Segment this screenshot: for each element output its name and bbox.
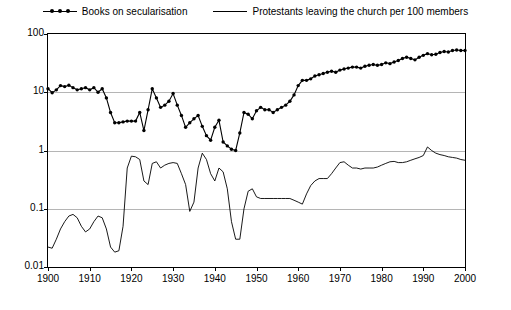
x-axis-tick — [340, 267, 341, 271]
series-marker — [163, 103, 166, 106]
series-marker — [434, 53, 437, 56]
series-marker — [367, 64, 370, 67]
series-marker — [251, 117, 254, 120]
series-marker — [342, 67, 345, 70]
series-line-0 — [48, 50, 465, 150]
x-axis-label: 1960 — [278, 273, 318, 284]
series-marker — [372, 63, 375, 66]
series-marker — [159, 106, 162, 109]
series-marker — [167, 100, 170, 103]
series-marker — [180, 114, 183, 117]
series-marker — [92, 86, 95, 89]
series-marker — [409, 57, 412, 60]
series-marker — [301, 79, 304, 82]
x-axis-label: 1990 — [403, 273, 443, 284]
series-marker — [75, 88, 78, 91]
series-marker — [109, 111, 112, 114]
series-marker — [401, 57, 404, 60]
x-axis-tick — [298, 267, 299, 271]
series-marker — [442, 50, 445, 53]
series-marker — [255, 109, 258, 112]
series-marker — [171, 92, 174, 95]
x-axis-label: 2000 — [445, 273, 485, 284]
legend-marker-line-icon — [213, 7, 247, 17]
series-marker — [259, 106, 262, 109]
series-marker — [297, 84, 300, 87]
series-marker — [205, 134, 208, 137]
series-marker — [413, 58, 416, 61]
series-marker — [113, 121, 116, 124]
series-marker — [330, 69, 333, 72]
series-marker — [59, 84, 62, 87]
series-marker — [55, 88, 58, 91]
series-marker — [192, 117, 195, 120]
series-marker — [126, 119, 129, 122]
series-marker — [134, 119, 137, 122]
x-axis-label: 1920 — [111, 273, 151, 284]
series-marker — [392, 60, 395, 63]
series-marker — [284, 103, 287, 106]
series-marker — [438, 51, 441, 54]
series-marker — [322, 72, 325, 75]
series-marker — [426, 52, 429, 55]
series-marker — [105, 96, 108, 99]
series-marker — [201, 125, 204, 128]
series-marker — [271, 111, 274, 114]
series-marker — [455, 48, 458, 51]
series-marker — [184, 126, 187, 129]
series-marker — [221, 140, 224, 143]
series-marker — [276, 108, 279, 111]
x-axis-tick — [465, 267, 466, 271]
y-axis-label: 0.01 — [4, 260, 44, 271]
series-marker — [430, 53, 433, 56]
legend-label-protestants: Protestants leaving the church per 100 m… — [252, 6, 468, 17]
x-axis-label: 1910 — [70, 273, 110, 284]
series-marker — [338, 68, 341, 71]
y-axis-label: 1 — [4, 144, 44, 155]
series-marker — [447, 50, 450, 53]
series-marker — [363, 65, 366, 68]
series-marker — [347, 66, 350, 69]
series-marker — [451, 49, 454, 52]
y-axis-label: 0.1 — [4, 202, 44, 213]
series-marker — [71, 86, 74, 89]
plot-area: 1001010.10.01190019101920193019401950196… — [47, 33, 466, 268]
x-axis-tick — [382, 267, 383, 271]
series-marker — [317, 73, 320, 76]
series-marker — [417, 55, 420, 58]
series-marker — [63, 85, 66, 88]
series-marker — [242, 111, 245, 114]
series-marker — [288, 100, 291, 103]
x-axis-tick — [48, 267, 49, 271]
series-marker — [405, 55, 408, 58]
series-marker — [388, 62, 391, 65]
series-marker — [226, 144, 229, 147]
y-axis-label: 100 — [4, 27, 44, 38]
series-canvas — [48, 34, 465, 267]
chart-root: Books on secularisation Protestants leav… — [0, 0, 511, 310]
series-marker — [217, 119, 220, 122]
series-marker — [267, 108, 270, 111]
series-marker — [176, 103, 179, 106]
series-marker — [50, 91, 53, 94]
series-marker — [101, 87, 104, 90]
legend-marker-line-dots-icon — [43, 7, 77, 17]
series-marker — [422, 54, 425, 57]
series-marker — [463, 49, 466, 52]
series-marker — [246, 113, 249, 116]
series-marker — [313, 74, 316, 77]
x-axis-label: 1980 — [362, 273, 402, 284]
series-marker — [146, 108, 149, 111]
x-axis-tick — [257, 267, 258, 271]
series-marker — [80, 87, 83, 90]
series-marker — [384, 61, 387, 64]
series-marker — [130, 119, 133, 122]
series-marker — [67, 84, 70, 87]
series-marker — [263, 108, 266, 111]
y-axis-label: 10 — [4, 85, 44, 96]
legend-item-books: Books on secularisation — [43, 6, 188, 17]
x-axis-tick — [173, 267, 174, 271]
series-marker — [155, 96, 158, 99]
x-axis-label: 1900 — [28, 273, 68, 284]
series-marker — [96, 91, 99, 94]
